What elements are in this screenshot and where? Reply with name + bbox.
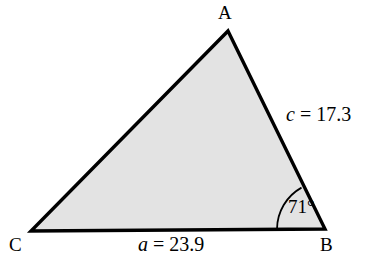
side-a-variable: a <box>138 233 148 255</box>
triangle-graphic <box>0 0 379 260</box>
side-label-a: a = 23.9 <box>138 234 204 254</box>
side-a-value: 23.9 <box>169 233 204 255</box>
side-c-equals: = <box>300 103 311 125</box>
side-c-variable: c <box>286 103 295 125</box>
side-a-equals: = <box>153 233 164 255</box>
vertex-label-c: C <box>9 235 22 254</box>
side-label-c: c = 17.3 <box>286 104 351 124</box>
vertex-label-a: A <box>218 3 232 22</box>
angle-label-b: 71° <box>288 197 315 216</box>
triangle-shape <box>31 31 325 231</box>
vertex-label-b: B <box>320 235 333 254</box>
side-c-value: 17.3 <box>316 103 351 125</box>
triangle-figure: A B C c = 17.3 a = 23.9 71° <box>0 0 379 260</box>
